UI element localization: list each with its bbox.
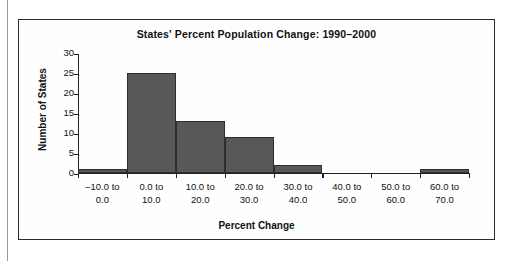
bar: [127, 73, 176, 173]
y-axis-line: [78, 54, 79, 174]
y-tick-label: 25: [63, 67, 74, 78]
x-tick-label-line1: 30.0 to: [274, 180, 323, 193]
bar: [78, 169, 127, 173]
x-tick-label-line1: 60.0 to: [420, 180, 469, 193]
x-tick-mark: [127, 173, 128, 178]
x-tick-label-line2: 0.0: [78, 193, 127, 206]
y-tick-mark: [74, 54, 78, 55]
chart-figure-frame: States' Percent Population Change: 1990–…: [18, 19, 495, 240]
bar: [274, 165, 323, 173]
x-tick-label: 0.0 to10.0: [127, 180, 176, 206]
x-tick-mark: [274, 173, 275, 178]
x-tick-label: 40.0 to50.0: [322, 180, 371, 206]
x-tick-label-line1: 10.0 to: [176, 180, 225, 193]
x-tick-label-line2: 40.0: [274, 193, 323, 206]
x-tick-mark: [469, 173, 470, 178]
x-tick-mark: [78, 173, 79, 178]
y-tick-mark: [74, 114, 78, 115]
x-tick-label-line2: 50.0: [322, 193, 371, 206]
y-tick-mark: [74, 74, 78, 75]
x-axis-tick-labels: –10.0 to0.00.0 to10.010.0 to20.020.0 to3…: [78, 180, 469, 214]
y-axis-title: Number of States: [37, 60, 48, 160]
x-tick-mark: [322, 173, 323, 178]
x-tick-label-line2: 30.0: [225, 193, 274, 206]
x-tick-label-line1: 40.0 to: [322, 180, 371, 193]
plot-area: 051015202530: [78, 54, 469, 174]
x-tick-mark: [371, 173, 372, 178]
y-tick-mark: [74, 134, 78, 135]
x-tick-label-line1: 50.0 to: [371, 180, 420, 193]
x-tick-mark: [420, 173, 421, 178]
x-tick-label-line1: –10.0 to: [78, 180, 127, 193]
y-tick-mark: [74, 154, 78, 155]
x-tick-mark: [225, 173, 226, 178]
y-tick-label: 30: [63, 47, 74, 58]
y-tick-label: 0: [69, 167, 74, 178]
x-tick-label: 60.0 to70.0: [420, 180, 469, 206]
bar: [176, 121, 225, 173]
x-tick-label: –10.0 to0.0: [78, 180, 127, 206]
x-tick-label-line2: 70.0: [420, 193, 469, 206]
y-tick-label: 5: [69, 147, 74, 158]
y-tick-label: 20: [63, 87, 74, 98]
page-edge-line: [7, 0, 8, 261]
chart-title: States' Percent Population Change: 1990–…: [19, 28, 494, 40]
y-tick-label: 15: [63, 107, 74, 118]
x-axis-title: Percent Change: [19, 220, 494, 231]
x-tick-mark: [176, 173, 177, 178]
y-tick-label: 10: [63, 127, 74, 138]
bar: [420, 169, 469, 173]
x-tick-label: 30.0 to40.0: [274, 180, 323, 206]
x-tick-label: 10.0 to20.0: [176, 180, 225, 206]
x-tick-label: 20.0 to30.0: [225, 180, 274, 206]
y-tick-mark: [74, 94, 78, 95]
x-tick-label-line2: 10.0: [127, 193, 176, 206]
x-tick-label-line1: 0.0 to: [127, 180, 176, 193]
x-tick-label: 50.0 to60.0: [371, 180, 420, 206]
x-tick-label-line2: 60.0: [371, 193, 420, 206]
bar: [225, 137, 274, 173]
x-tick-label-line2: 20.0: [176, 193, 225, 206]
x-tick-label-line1: 20.0 to: [225, 180, 274, 193]
